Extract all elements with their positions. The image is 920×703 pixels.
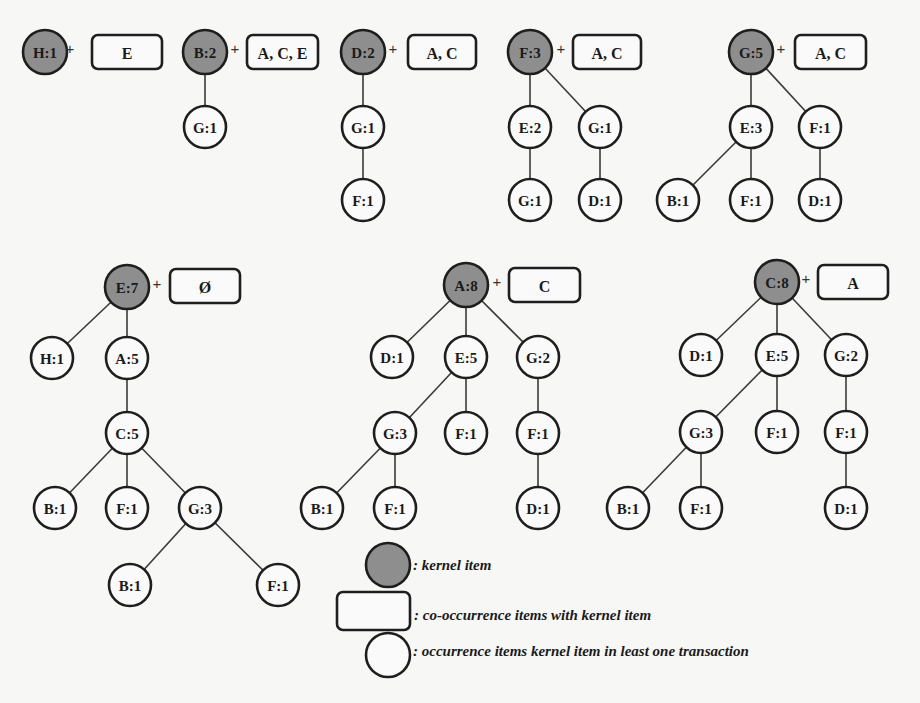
occurrence-node: B:1 (109, 564, 151, 606)
nodes-layer: H:1+EB:2G:1+A, C, ED:2G:1F:1+A, CF:3E:2G… (23, 30, 888, 606)
occurrence-node: F:1 (680, 487, 722, 529)
cooccurrence-box: A, C (795, 35, 866, 69)
occurrence-node: G:1 (579, 106, 621, 148)
kernel-node: B:2 (183, 30, 227, 74)
occurrence-node: B:1 (34, 487, 76, 529)
diagram-canvas: H:1+EB:2G:1+A, C, ED:2G:1F:1+A, CF:3E:2G… (0, 0, 920, 703)
occurrence-node: C:5 (106, 412, 148, 454)
occurrence-node: F:1 (825, 411, 867, 453)
plus-sign: + (777, 40, 786, 57)
occurrence-node-label: G:2 (834, 348, 858, 364)
cooccurrence-box: C (509, 268, 580, 302)
tree-E: E:7H:1A:5C:5B:1F:1G:3B:1F:1+Ø (31, 265, 299, 606)
occurrence-node-label: H:1 (40, 351, 64, 367)
occurrence-node: D:1 (371, 336, 413, 378)
occurrence-node: G:1 (342, 106, 384, 148)
tree-B: B:2G:1+A, C, E (183, 30, 318, 148)
occurrence-node-label: D:1 (526, 501, 549, 517)
occurrence-node: F:1 (799, 106, 841, 148)
legend: : kernel item : co-occurrence items with… (337, 543, 749, 677)
cooccurrence-box: A (818, 265, 888, 299)
occurrence-node-label: E:5 (455, 350, 478, 366)
legend-occurrence-swatch (366, 633, 410, 677)
cooccurrence-label: A, C (815, 45, 846, 62)
occurrence-node-label: F:1 (116, 501, 138, 517)
occurrence-node-label: F:1 (455, 426, 477, 442)
occurrence-node-label: F:1 (835, 425, 857, 441)
kernel-node-label: A:8 (454, 278, 477, 294)
occurrence-node-label: G:3 (188, 501, 212, 517)
legend-cooccurrence-label: : co-occurrence items with kernel item (414, 607, 651, 623)
cooccurrence-label: A, C, E (258, 45, 308, 62)
occurrence-node: A:5 (106, 337, 148, 379)
occurrence-node-label: E:2 (519, 120, 542, 136)
occurrence-node-label: F:1 (766, 425, 788, 441)
kernel-node-label: H:1 (33, 45, 57, 61)
cooccurrence-label: Ø (199, 279, 211, 296)
occurrence-node: F:1 (106, 487, 148, 529)
occurrence-node-label: F:1 (690, 501, 712, 517)
kernel-node: H:1 (23, 30, 67, 74)
occurrence-node-label: G:3 (689, 425, 713, 441)
kernel-node-label: E:7 (116, 280, 139, 296)
occurrence-node-label: F:1 (352, 193, 374, 209)
occurrence-node-label: D:1 (588, 193, 611, 209)
cooccurrence-label: A, C (426, 45, 457, 62)
occurrence-node-label: F:1 (384, 501, 406, 517)
plus-sign: + (557, 40, 566, 57)
occurrence-node: D:1 (579, 179, 621, 221)
occurrence-node-label: F:1 (740, 193, 762, 209)
occurrence-node-label: C:5 (115, 426, 138, 442)
legend-cooccurrence-swatch (337, 592, 410, 630)
occurrence-node: E:5 (756, 334, 798, 376)
occurrence-node-label: D:1 (834, 501, 857, 517)
occurrence-node: B:1 (301, 487, 343, 529)
occurrence-node: B:1 (657, 179, 699, 221)
occurrence-node-label: G:2 (526, 350, 550, 366)
tree-F: F:3E:2G:1G:1D:1+A, C (508, 30, 641, 221)
kernel-node-label: B:2 (194, 45, 217, 61)
occurrence-node-label: B:1 (119, 578, 142, 594)
occurrence-node-label: G:1 (193, 120, 217, 136)
plus-sign: + (231, 40, 240, 57)
occurrence-node: E:5 (445, 336, 487, 378)
occurrence-node: H:1 (31, 337, 73, 379)
kernel-node-label: C:8 (765, 275, 788, 291)
occurrence-node-label: B:1 (667, 193, 690, 209)
cooccurrence-box: Ø (170, 269, 240, 303)
legend-kernel-label: : kernel item (413, 557, 491, 573)
occurrence-node: G:3 (680, 411, 722, 453)
occurrence-node: E:3 (730, 106, 772, 148)
kernel-node: F:3 (508, 30, 552, 74)
occurrence-node: F:1 (445, 412, 487, 454)
occurrence-node-label: B:1 (617, 501, 640, 517)
kernel-node: E:7 (105, 265, 149, 309)
cooccurrence-label: A, C (591, 45, 622, 62)
legend-occurrence-label: : occurrence items kernel item in least … (413, 643, 749, 659)
cooccurrence-box: A, C (408, 35, 476, 69)
occurrence-node: G:1 (509, 179, 551, 221)
plus-sign: + (802, 270, 811, 287)
occurrence-node: G:3 (374, 412, 416, 454)
occurrence-node-label: G:1 (588, 120, 612, 136)
tree-D: D:2G:1F:1+A, C (341, 30, 476, 221)
occurrence-node-label: D:1 (689, 348, 712, 364)
occurrence-node: D:1 (799, 179, 841, 221)
kernel-item-trees-diagram: H:1+EB:2G:1+A, C, ED:2G:1F:1+A, CF:3E:2G… (0, 0, 920, 703)
kernel-node: D:2 (341, 30, 385, 74)
cooccurrence-label: C (539, 278, 551, 295)
occurrence-node-label: F:1 (527, 426, 549, 442)
cooccurrence-label: A (847, 275, 859, 292)
occurrence-node: F:1 (756, 411, 798, 453)
kernel-node-label: G:5 (739, 45, 763, 61)
occurrence-node: D:1 (825, 487, 867, 529)
cooccurrence-box: E (92, 35, 162, 69)
occurrence-node-label: F:1 (267, 578, 289, 594)
cooccurrence-box: A, C, E (247, 35, 318, 69)
occurrence-node-label: F:1 (809, 120, 831, 136)
occurrence-node: D:1 (517, 487, 559, 529)
plus-sign: + (493, 273, 502, 290)
occurrence-node-label: B:1 (44, 501, 67, 517)
tree-H: H:1+E (23, 30, 162, 74)
occurrence-node: D:1 (680, 334, 722, 376)
